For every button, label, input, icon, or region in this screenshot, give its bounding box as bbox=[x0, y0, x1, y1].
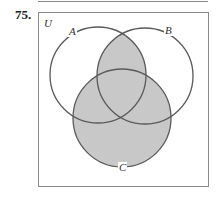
set-c-label: C bbox=[119, 161, 127, 173]
set-a-label: A bbox=[68, 25, 76, 37]
set-b-label: B bbox=[165, 24, 172, 36]
universe-label: U bbox=[44, 17, 53, 29]
venn-diagram: U A B C bbox=[0, 0, 218, 197]
